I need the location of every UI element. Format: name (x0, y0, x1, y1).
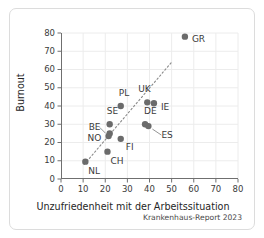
scatter-point-label: CH (110, 157, 123, 166)
y-tick-label: 10 (33, 156, 55, 165)
scatter-point-label: NL (88, 167, 100, 176)
y-axis-title: Burnout (15, 53, 26, 133)
x-tick-label: 50 (162, 185, 182, 194)
y-tick-label: 30 (33, 120, 55, 129)
scatter-point-label: FI (126, 143, 134, 152)
scatter-point-label: NO (88, 134, 102, 143)
y-tick-label: 60 (33, 65, 55, 74)
x-tick-label: 30 (117, 185, 137, 194)
source-note: Krankenhaus-Report 2023 (143, 213, 242, 222)
scatter-point-label: GR (192, 35, 205, 44)
x-tick-label: 10 (73, 185, 93, 194)
x-tick-label: 80 (228, 185, 248, 194)
scatter-point-label: BE (89, 123, 101, 132)
chart-figure: GRIEUKPLDEESSEBENOFICHNL 010203040506070… (9, 8, 255, 230)
scatter-point-label: ES (161, 131, 172, 140)
y-tick-label: 70 (33, 47, 55, 56)
y-tick-label: 20 (33, 138, 55, 147)
x-tick-label: 40 (140, 185, 160, 194)
x-axis-title: Unzufriedenheit mit der Arbeitssituation (10, 201, 256, 212)
y-tick-label: 80 (33, 29, 55, 38)
scatter-point-label: SE (107, 107, 118, 116)
scatter-point-label: UK (138, 85, 151, 94)
scatter-point-label: IE (161, 103, 169, 112)
plot-area: GRIEUKPLDEESSEBENOFICHNL 010203040506070… (61, 33, 238, 179)
scatter-point-label: DE (144, 107, 157, 116)
x-tick-label: 60 (184, 185, 204, 194)
y-tick-label: 0 (33, 175, 55, 184)
y-tick-label: 50 (33, 83, 55, 92)
scatter-point-label: PL (119, 89, 129, 98)
x-tick-label: 20 (95, 185, 115, 194)
y-tick-label: 40 (33, 102, 55, 111)
x-tick-label: 70 (206, 185, 226, 194)
x-tick-label: 0 (51, 185, 71, 194)
